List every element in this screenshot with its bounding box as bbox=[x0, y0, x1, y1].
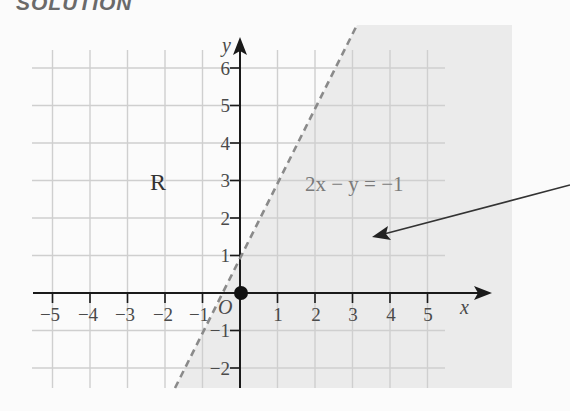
x-tick-label: 5 bbox=[423, 304, 433, 325]
equation-label: 2x − y = −1 bbox=[305, 172, 404, 196]
x-tick-label: −1 bbox=[189, 304, 209, 325]
x-tick-label: −3 bbox=[115, 304, 135, 325]
y-tick-label: 6 bbox=[221, 58, 231, 79]
y-tick-label: 1 bbox=[221, 245, 231, 266]
y-tick-label: −1 bbox=[210, 320, 230, 341]
x-tick-label: −2 bbox=[153, 304, 173, 325]
x-axis-label: x bbox=[459, 296, 469, 318]
x-tick-label: −5 bbox=[40, 304, 60, 325]
x-tick-label: 2 bbox=[311, 304, 321, 325]
y-axis-label: y bbox=[220, 34, 231, 57]
origin-point bbox=[234, 286, 248, 300]
y-tick-label: 4 bbox=[221, 133, 231, 154]
x-tick-label: −4 bbox=[78, 304, 99, 325]
y-tick-label: 5 bbox=[221, 95, 231, 116]
inequality-graph: −5 −4 −3 −2 −1 1 2 3 4 5 −2 −1 1 2 3 4 5… bbox=[0, 0, 570, 411]
y-tick-label: 3 bbox=[221, 170, 231, 191]
region-label: R bbox=[150, 169, 166, 195]
y-tick-label: −2 bbox=[210, 358, 230, 379]
x-tick-label: 3 bbox=[348, 304, 358, 325]
y-tick-label: 2 bbox=[221, 208, 231, 229]
x-tick-label: 4 bbox=[386, 304, 396, 325]
x-tick-label: 1 bbox=[273, 304, 283, 325]
